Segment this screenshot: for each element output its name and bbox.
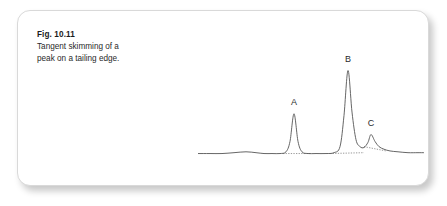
baseline-peak-b (330, 153, 364, 154)
chromatogram-svg: A B C (198, 25, 424, 173)
peak-label-a: A (291, 97, 297, 107)
caption-title: Fig. 10.11 (37, 29, 177, 41)
peak-label-c: C (368, 118, 375, 128)
figure-page: Fig. 10.11 Tangent skimming of a peak on… (0, 0, 447, 206)
figure-card: Fig. 10.11 Tangent skimming of a peak on… (17, 10, 429, 186)
chromatogram-trace (198, 71, 424, 154)
caption-line-1: Tangent skimming of a (37, 41, 177, 53)
caption-line-2: peak on a tailing edge. (37, 53, 177, 65)
peak-label-b: B (345, 54, 351, 64)
figure-caption: Fig. 10.11 Tangent skimming of a peak on… (37, 29, 177, 65)
chromatogram-plot: A B C (198, 25, 424, 173)
